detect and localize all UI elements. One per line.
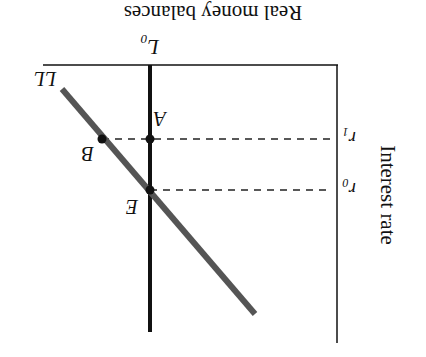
y-axis-label: Interest rate [376,145,400,245]
x-axis-label: Real money balances [124,1,302,25]
point-E [146,186,155,195]
r1-label: r1 [343,125,356,149]
supply-curve-label: L0 [140,32,160,59]
point-A-label: A [153,108,168,130]
money-market-diagram: Real money balances L0 LL A B E r1 r0 In… [0,0,426,357]
diagram-canvas: Real money balances L0 LL A B E r1 r0 In… [0,0,426,357]
point-E-label: E [126,196,139,218]
demand-curve-label: LL [34,68,57,90]
r0-label: r0 [343,176,356,200]
point-A [146,135,155,144]
point-B-label: B [82,143,94,165]
point-B [98,135,107,144]
